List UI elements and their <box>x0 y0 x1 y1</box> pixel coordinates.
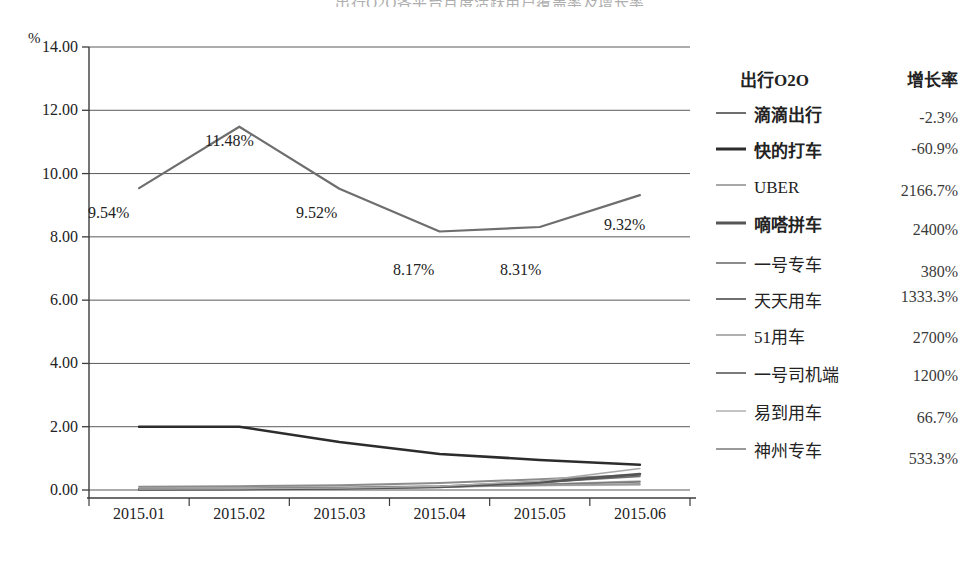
legend-line-swatch <box>716 404 746 418</box>
legend-growth-rate: 2400% <box>913 220 958 240</box>
legend-header-rate: 增长率 <box>907 66 958 91</box>
legend-series-name: 51用车 <box>754 328 805 348</box>
y-axis-tick-0: 14.00 <box>14 39 78 55</box>
legend-line-swatch <box>716 328 746 342</box>
x-axis-tick-3: 2015.04 <box>385 506 495 522</box>
legend-growth-rate: 2700% <box>913 328 958 348</box>
legend-row[interactable]: 易到用车66.7% <box>700 404 962 426</box>
x-axis-tick-1: 2015.02 <box>184 506 294 522</box>
y-axis-tick-1: 12.00 <box>14 102 78 118</box>
data-label-0: 9.54% <box>88 205 129 221</box>
legend-growth-rate: 1333.3% <box>901 287 958 307</box>
legend-row[interactable]: 快的打车-60.9% <box>700 142 962 164</box>
x-axis-tick-4: 2015.05 <box>485 506 595 522</box>
data-label-5: 9.32% <box>604 217 645 233</box>
legend-series-name: 快的打车 <box>754 142 822 162</box>
y-axis-tick-4: 6.00 <box>14 292 78 308</box>
legend-growth-rate: 1200% <box>913 366 958 386</box>
legend-line-swatch <box>716 106 746 120</box>
legend-series-name: 嘀嗒拼车 <box>754 216 822 236</box>
legend-row[interactable]: 一号专车380% <box>700 256 962 278</box>
legend-line-swatch <box>716 442 746 456</box>
legend-series-name: 神州专车 <box>754 442 822 462</box>
legend-line-swatch <box>716 366 746 380</box>
data-label-3: 8.17% <box>393 262 434 278</box>
x-axis-tick-2: 2015.03 <box>284 506 394 522</box>
legend-growth-rate: 2166.7% <box>901 181 958 201</box>
legend-line-swatch <box>716 292 746 306</box>
legend-row[interactable]: 滴滴出行-2.3% <box>700 106 962 128</box>
legend-line-swatch <box>716 256 746 270</box>
legend: 出行O2O 增长率 滴滴出行-2.3%快的打车-60.9%UBER2166.7%… <box>700 66 962 94</box>
legend-growth-rate: -60.9% <box>911 139 958 159</box>
legend-line-swatch <box>716 178 746 192</box>
y-axis-tick-2: 10.00 <box>14 166 78 182</box>
x-axis-tick-0: 2015.01 <box>84 506 194 522</box>
y-axis-tick-5: 4.00 <box>14 355 78 371</box>
legend-series-name: 易到用车 <box>754 404 822 424</box>
legend-row[interactable]: 天天用车1333.3% <box>700 292 962 314</box>
legend-series-name: 滴滴出行 <box>754 106 822 126</box>
legend-series-name: 一号司机端 <box>754 366 839 386</box>
y-axis-tick-6: 2.00 <box>14 419 78 435</box>
legend-header-name: 出行O2O <box>740 66 809 91</box>
data-label-4: 8.31% <box>500 262 541 278</box>
legend-header: 出行O2O 增长率 <box>700 66 962 94</box>
x-axis-tick-5: 2015.06 <box>585 506 695 522</box>
legend-growth-rate: -2.3% <box>919 108 958 128</box>
legend-row[interactable]: 嘀嗒拼车2400% <box>700 216 962 238</box>
y-axis-tick-3: 8.00 <box>14 229 78 245</box>
chart-container: 出行O2O各平台月度活跃用户覆盖率及增长率 % 14.0012.0010.008… <box>0 0 968 561</box>
legend-row[interactable]: 一号司机端1200% <box>700 366 962 388</box>
data-label-2: 9.52% <box>296 205 337 221</box>
legend-growth-rate: 533.3% <box>909 449 958 469</box>
y-axis-tick-7: 0.00 <box>14 482 78 498</box>
legend-row[interactable]: 神州专车533.3% <box>700 442 962 464</box>
data-label-1: 11.48% <box>205 133 254 149</box>
legend-series-name: 一号专车 <box>754 256 822 276</box>
legend-line-swatch <box>716 216 746 230</box>
legend-row[interactable]: UBER2166.7% <box>700 178 962 200</box>
legend-growth-rate: 66.7% <box>917 408 958 428</box>
legend-line-swatch <box>716 142 746 156</box>
legend-series-name: 天天用车 <box>754 292 822 312</box>
legend-series-name: UBER <box>754 178 799 198</box>
legend-growth-rate: 380% <box>921 262 958 282</box>
legend-row[interactable]: 51用车2700% <box>700 328 962 350</box>
